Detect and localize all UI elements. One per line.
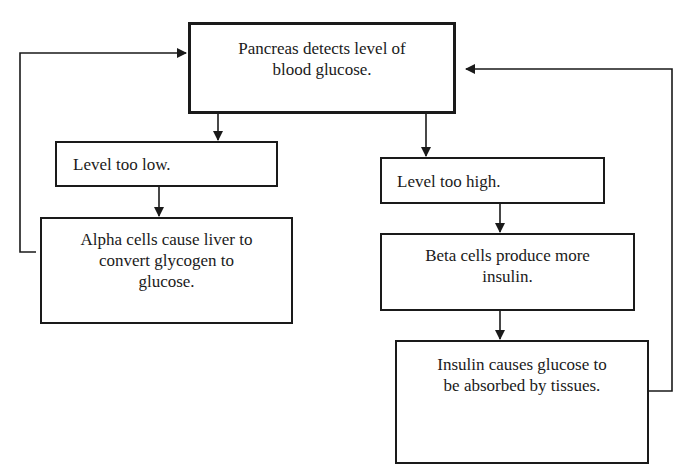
node-insulin-absorbed: Insulin causes glucose to be absorbed by… xyxy=(395,340,649,464)
node-alpha-cells: Alpha cells cause liver to convert glyco… xyxy=(40,217,293,324)
node-level-too-high: Level too high. xyxy=(380,157,605,204)
node-beta-cells: Beta cells produce more insulin. xyxy=(380,233,635,311)
node-label: Level too low. xyxy=(73,154,276,175)
node-pancreas-detects: Pancreas detects level of blood glucose. xyxy=(188,22,456,114)
node-label: Alpha cells cause liver to convert glyco… xyxy=(42,229,291,292)
node-label: Insulin causes glucose to be absorbed by… xyxy=(397,354,647,396)
node-label: Beta cells produce more insulin. xyxy=(382,245,633,287)
node-level-too-low: Level too low. xyxy=(55,141,278,187)
node-label: Pancreas detects level of blood glucose. xyxy=(191,38,453,80)
glucose-regulation-flowchart: Pancreas detects level of blood glucose.… xyxy=(0,0,686,473)
node-label: Level too high. xyxy=(397,171,603,192)
